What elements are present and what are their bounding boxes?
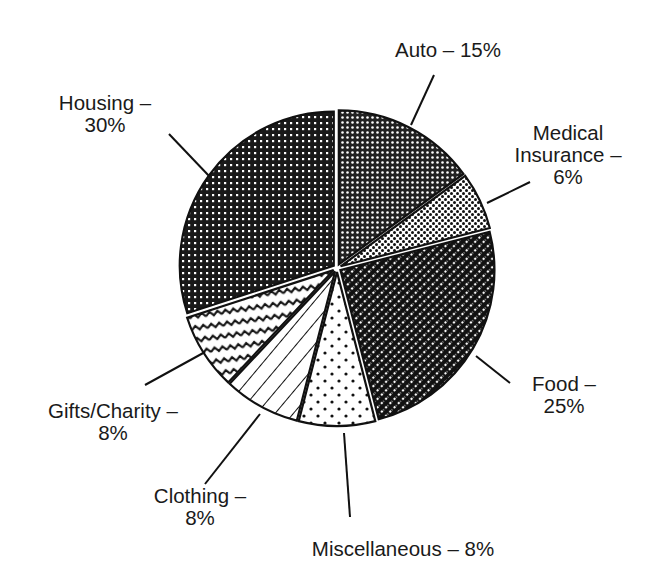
slice-label: Clothing –8% bbox=[154, 484, 247, 529]
pie-chart-canvas: Auto – 15%MedicalInsurance –6%Food –25%M… bbox=[0, 0, 664, 584]
slice-label: Food –25% bbox=[532, 372, 596, 417]
slice-label: Auto – 15% bbox=[395, 38, 501, 61]
slice-label: Housing –30% bbox=[59, 91, 152, 136]
slice-label: Miscellaneous – 8% bbox=[312, 537, 494, 560]
leader-line bbox=[169, 134, 210, 177]
slice-label: Gifts/Charity –8% bbox=[48, 399, 178, 444]
pie-slices bbox=[180, 110, 495, 426]
leader-line bbox=[487, 182, 530, 203]
leader-line bbox=[476, 356, 510, 383]
slice-label: MedicalInsurance –6% bbox=[514, 121, 622, 188]
leader-line bbox=[411, 75, 434, 125]
pie-chart: Auto – 15%MedicalInsurance –6%Food –25%M… bbox=[0, 0, 664, 584]
leader-line bbox=[145, 352, 205, 385]
leader-line bbox=[344, 433, 350, 517]
leader-line bbox=[205, 414, 260, 484]
